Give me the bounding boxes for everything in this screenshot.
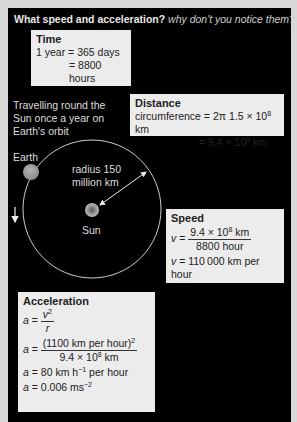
orbit-caption: Travelling round the Sun once a year on … (13, 99, 105, 138)
caption-line: Travelling round the (13, 99, 105, 112)
acceleration-line-4: a = 0.006 ms−2 (23, 381, 150, 394)
time-box: Time 1 year = 365 days = 8800 hours (31, 30, 131, 86)
acceleration-formula-1: a = v2r (23, 308, 150, 335)
sun-icon (85, 203, 99, 217)
speed-fraction: 9.4 × 108 km 8800 hour (188, 226, 251, 253)
radius-line: radius 150 (72, 163, 121, 176)
speed-box: Speed v = 9.4 × 108 km 8800 hour v = 110… (166, 209, 284, 283)
sun-label: Sun (82, 224, 101, 237)
time-line: = 8800 hours (36, 59, 126, 85)
distance-box: Distance circumference = 2π 1.5 × 108 km… (130, 94, 284, 136)
distance-line: circumference = 2π 1.5 × 108 km (135, 110, 279, 136)
earth-label: Earth (13, 151, 38, 164)
earth-icon (23, 164, 39, 180)
acceleration-heading: Acceleration (23, 295, 150, 308)
speed-heading: Speed (171, 212, 279, 225)
time-line: 1 year = 365 days (36, 46, 126, 59)
distance-heading: Distance (135, 97, 279, 110)
caption-line: Sun once a year on (13, 112, 105, 125)
acceleration-line-3: a = 80 km h−1 per hour (23, 366, 150, 379)
radius-label: radius 150 million km (72, 163, 121, 189)
distance-line: = 9.4 × 108 km (135, 136, 279, 149)
acceleration-formula-2: a = (1100 km per hour)29.4 × 108 km (23, 337, 150, 364)
time-heading: Time (36, 33, 126, 46)
caption-line: Earth's orbit (13, 125, 105, 138)
speed-formula: v = 9.4 × 108 km 8800 hour (171, 226, 279, 253)
radius-line: million km (72, 176, 121, 189)
acceleration-box: Acceleration a = v2r a = (1100 km per ho… (18, 292, 155, 412)
speed-result: v = 110 000 km per hour (171, 255, 279, 281)
